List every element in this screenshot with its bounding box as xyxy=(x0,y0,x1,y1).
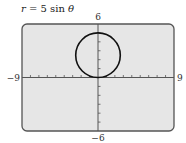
chart-title: r = 5 sin θ xyxy=(21,3,74,14)
y-max-label: 6 xyxy=(95,12,101,22)
x-max-label: 9 xyxy=(177,73,183,83)
y-min-label: −6 xyxy=(91,133,105,143)
polar-graph: r = 5 sin θ −9 9 6 −6 xyxy=(0,0,186,143)
x-min-label: −9 xyxy=(7,73,21,83)
